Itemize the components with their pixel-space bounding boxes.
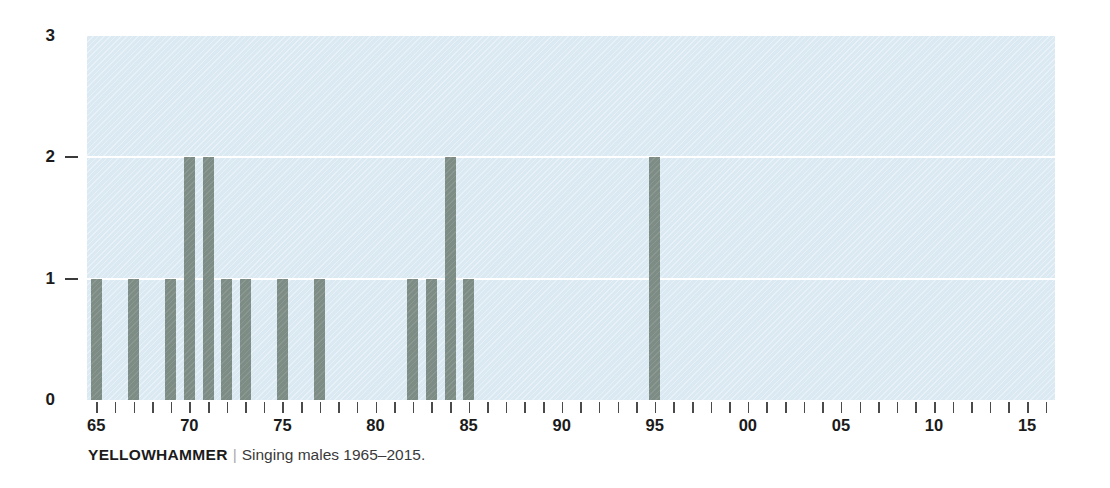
chart-caption: YELLOWHAMMER|Singing males 1965–2015. [88, 446, 425, 464]
bar [128, 279, 139, 400]
x-tick-label: 10 [925, 416, 943, 435]
x-tick-mark [450, 402, 452, 413]
x-tick-mark [152, 402, 154, 413]
x-tick-mark [208, 402, 210, 413]
x-tick-label: 80 [366, 416, 384, 435]
x-tick-mark [282, 402, 284, 413]
x-tick-mark [115, 402, 117, 413]
x-tick-label: 00 [739, 416, 757, 435]
y-tick-label: 2 [46, 147, 55, 167]
x-tick-mark [227, 402, 229, 413]
x-tick-mark [1008, 402, 1010, 413]
caption-separator: | [228, 446, 242, 463]
x-tick-mark [469, 402, 471, 413]
x-tick-mark [990, 402, 992, 413]
gridline [87, 278, 1055, 280]
plot-area [87, 36, 1055, 400]
x-tick-label: 85 [459, 416, 477, 435]
x-axis: 6570758085909500051015 [87, 400, 1077, 440]
x-tick-mark [729, 402, 731, 413]
y-tick-label: 3 [46, 26, 55, 46]
y-axis: 0123 [0, 0, 87, 420]
x-tick-mark [357, 402, 359, 413]
bar [445, 157, 456, 400]
x-tick-mark [711, 402, 713, 413]
y-tick-label: 1 [46, 269, 55, 289]
x-tick-mark [822, 402, 824, 413]
bar [314, 279, 325, 400]
bar [184, 157, 195, 400]
x-tick-label: 65 [87, 416, 105, 435]
x-tick-mark [748, 402, 750, 413]
x-tick-mark [431, 402, 433, 413]
x-tick-mark [487, 402, 489, 413]
x-tick-mark [96, 402, 98, 413]
x-tick-mark [1027, 402, 1029, 413]
x-tick-mark [320, 402, 322, 413]
x-tick-mark [301, 402, 303, 413]
x-tick-mark [655, 402, 657, 413]
x-tick-mark [953, 402, 955, 413]
caption-description: Singing males 1965–2015. [242, 446, 426, 463]
bar [463, 279, 474, 400]
x-tick-mark [524, 402, 526, 413]
x-tick-mark [804, 402, 806, 413]
x-tick-mark [673, 402, 675, 413]
x-tick-label: 95 [646, 416, 664, 435]
x-tick-label: 70 [180, 416, 198, 435]
x-tick-mark [543, 402, 545, 413]
x-tick-label: 05 [832, 416, 850, 435]
x-tick-mark [413, 402, 415, 413]
x-tick-mark [878, 402, 880, 413]
caption-species: YELLOWHAMMER [88, 446, 228, 463]
x-tick-mark [636, 402, 638, 413]
x-tick-mark [618, 402, 620, 413]
y-tick-label: 0 [46, 390, 55, 410]
x-tick-mark [506, 402, 508, 413]
x-tick-mark [264, 402, 266, 413]
y-tick-mark [65, 278, 78, 280]
x-tick-mark [245, 402, 247, 413]
bar [426, 279, 437, 400]
x-tick-mark [189, 402, 191, 413]
y-tick-mark [65, 156, 78, 158]
x-tick-mark [785, 402, 787, 413]
x-tick-mark [934, 402, 936, 413]
bar [165, 279, 176, 400]
x-tick-mark [376, 402, 378, 413]
x-tick-mark [766, 402, 768, 413]
x-tick-mark [171, 402, 173, 413]
x-tick-mark [860, 402, 862, 413]
gridline [87, 156, 1055, 158]
bar [221, 279, 232, 400]
x-tick-mark [897, 402, 899, 413]
x-tick-label: 15 [1018, 416, 1036, 435]
plot-background-texture [87, 36, 1055, 400]
x-tick-label: 90 [553, 416, 571, 435]
x-tick-mark [134, 402, 136, 413]
bar [203, 157, 214, 400]
bar [240, 279, 251, 400]
bar [277, 279, 288, 400]
x-tick-mark [599, 402, 601, 413]
x-tick-mark [580, 402, 582, 413]
x-tick-label: 75 [273, 416, 291, 435]
x-tick-mark [394, 402, 396, 413]
bar [649, 157, 660, 400]
x-tick-mark [971, 402, 973, 413]
x-tick-mark [841, 402, 843, 413]
bar [91, 279, 102, 400]
x-tick-mark [562, 402, 564, 413]
x-tick-mark [915, 402, 917, 413]
x-tick-mark [1046, 402, 1048, 413]
bar [407, 279, 418, 400]
x-tick-mark [692, 402, 694, 413]
x-tick-mark [338, 402, 340, 413]
chart-figure: 0123 6570758085909500051015 YELLOWHAMMER… [0, 0, 1110, 488]
